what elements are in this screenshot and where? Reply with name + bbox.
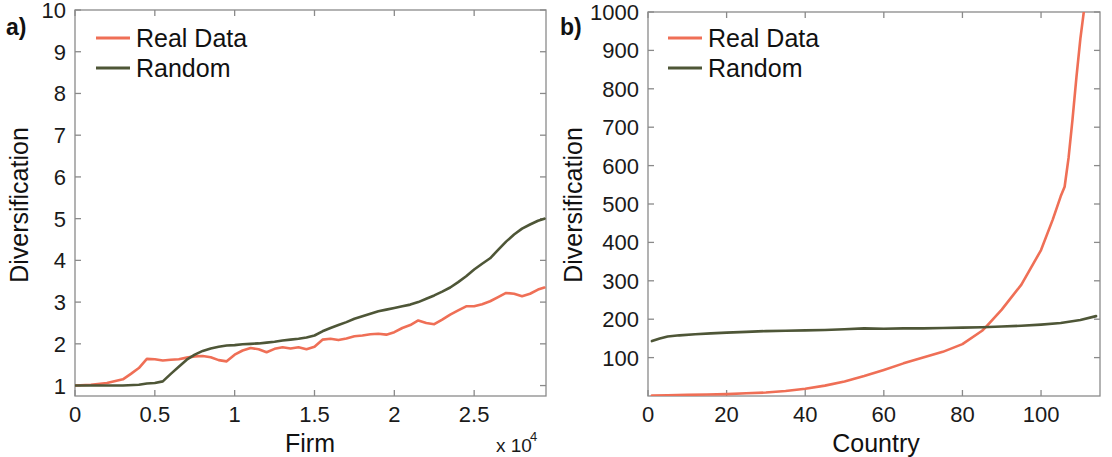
x-tick-label: 0 xyxy=(642,402,654,427)
y-tick-label: 3 xyxy=(54,290,66,315)
y-axis-title: Diversification xyxy=(559,127,587,283)
panel-a-plot: 00.511.522.512345678910FirmDiversificati… xyxy=(0,0,556,457)
x-tick-label: 0 xyxy=(69,402,81,427)
x-tick-label: 80 xyxy=(950,402,974,427)
panel-b-plot: 0204060801001002003004005006007008009001… xyxy=(556,0,1112,457)
x-tick-label: 0.5 xyxy=(140,402,171,427)
y-tick-label: 10 xyxy=(42,0,66,23)
y-tick-label: 2 xyxy=(54,332,66,357)
x-tick-label: 20 xyxy=(714,402,738,427)
y-tick-label: 100 xyxy=(602,346,639,371)
legend-label-1: Random xyxy=(136,54,231,82)
y-tick-label: 600 xyxy=(602,154,639,179)
x-tick-label: 60 xyxy=(872,402,896,427)
x-tick-label: 100 xyxy=(1023,402,1060,427)
figure-container: a) 00.511.522.512345678910FirmDiversific… xyxy=(0,0,1112,457)
x-axis-title: Firm xyxy=(285,429,335,457)
x-axis-title: Country xyxy=(832,429,920,457)
y-tick-label: 6 xyxy=(54,165,66,190)
panel-b: b) 0204060801001002003004005006007008009… xyxy=(556,0,1112,457)
x-axis-exponent: x 10 xyxy=(496,435,532,456)
x-axis-exponent-power: 4 xyxy=(530,429,537,444)
y-axis-title: Diversification xyxy=(5,127,33,283)
series-line-random xyxy=(652,316,1096,341)
x-tick-label: 1.5 xyxy=(299,402,330,427)
y-tick-label: 1 xyxy=(54,374,66,399)
x-tick-label: 2.5 xyxy=(459,402,490,427)
y-tick-label: 5 xyxy=(54,207,66,232)
y-tick-label: 500 xyxy=(602,192,639,217)
legend-label-1: Random xyxy=(708,54,803,82)
y-tick-label: 4 xyxy=(54,248,66,273)
y-tick-label: 9 xyxy=(54,40,66,65)
x-tick-label: 40 xyxy=(793,402,817,427)
y-tick-label: 300 xyxy=(602,269,639,294)
legend-label-0: Real Data xyxy=(136,24,247,52)
legend-label-0: Real Data xyxy=(708,24,819,52)
y-tick-label: 900 xyxy=(602,38,639,63)
panel-a: a) 00.511.522.512345678910FirmDiversific… xyxy=(0,0,556,457)
y-tick-label: 400 xyxy=(602,230,639,255)
x-tick-label: 1 xyxy=(229,402,241,427)
x-tick-label: 2 xyxy=(388,402,400,427)
y-tick-label: 7 xyxy=(54,123,66,148)
y-tick-label: 700 xyxy=(602,115,639,140)
y-tick-label: 800 xyxy=(602,77,639,102)
y-tick-label: 200 xyxy=(602,307,639,332)
y-tick-label: 1000 xyxy=(590,0,639,25)
y-tick-label: 8 xyxy=(54,81,66,106)
